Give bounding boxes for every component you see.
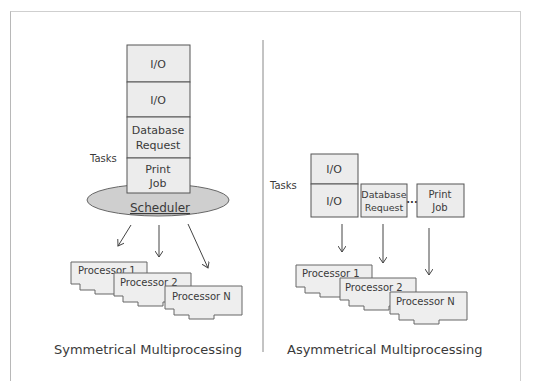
symmetrical-title: Symmetrical Multiprocessing — [54, 342, 242, 357]
processor-1-label: Processor 1 — [302, 268, 360, 279]
processor-n-label: Processor N — [172, 291, 231, 302]
task-io-1-label: I/O — [150, 58, 166, 71]
asymmetrical-title: Asymmetrical Multiprocessing — [287, 342, 482, 357]
task-database-label-2: Request — [136, 139, 181, 152]
tasks-label: Tasks — [269, 180, 297, 191]
task-database-label-2: Request — [365, 202, 404, 213]
task-print-label-2: Job — [149, 177, 167, 190]
processor-n: Processor N — [390, 292, 467, 324]
task-database-label-1: Database — [132, 124, 185, 137]
arrow-icon — [118, 225, 131, 246]
task-print-label-1: Print — [145, 163, 171, 176]
arrow-icon — [188, 224, 208, 268]
task-print-label-2: Job — [431, 202, 447, 213]
task-io-2-label: I/O — [150, 94, 166, 107]
processor-n-label: Processor N — [396, 296, 455, 307]
symmetrical-panel: Scheduler I/O I/O Database Request Print… — [54, 45, 242, 357]
tasks-label: Tasks — [89, 153, 117, 164]
task-io-2-label: I/O — [326, 195, 342, 208]
scheduler-label: Scheduler — [130, 201, 190, 215]
ellipsis-dots: ... — [406, 194, 417, 205]
task-print-label-1: Print — [428, 189, 451, 200]
processor-n: Processor N — [165, 286, 242, 319]
asymmetrical-panel: Tasks I/O I/O Database Request ... Print… — [269, 154, 482, 357]
processor-2-label: Processor 2 — [345, 282, 403, 293]
task-stack: I/O I/O Database Request Print Job — [127, 45, 190, 193]
task-database-label-1: Database — [361, 189, 406, 200]
task-io-1-label: I/O — [326, 163, 342, 176]
